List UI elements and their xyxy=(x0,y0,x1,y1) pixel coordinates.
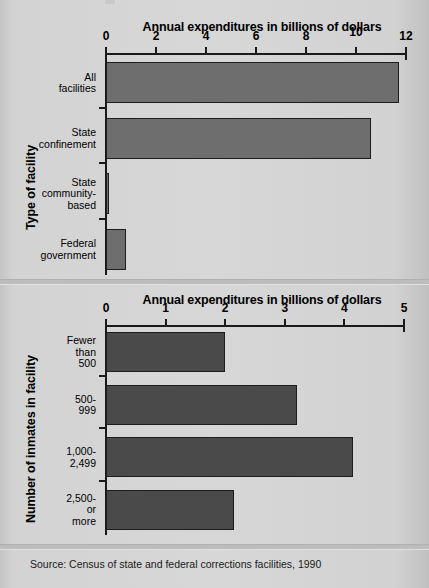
category-label: 500- 999 xyxy=(10,393,96,416)
category-label: State confinement xyxy=(10,127,96,150)
x-tick-label-8: 8 xyxy=(303,29,310,43)
x-tick-2 xyxy=(155,47,157,53)
x-axis-end-cap xyxy=(403,325,405,332)
x-axis-end-cap xyxy=(405,53,407,60)
x-tick-2 xyxy=(224,319,226,325)
x-axis-line-top xyxy=(105,53,407,55)
y-tick xyxy=(99,480,106,482)
x-tick-label-3: 3 xyxy=(281,301,288,315)
bar xyxy=(106,490,234,530)
y-tick xyxy=(99,375,106,377)
bar xyxy=(106,118,371,159)
plot-area-top: 024681012All facilitiesState confinement… xyxy=(105,53,405,275)
x-tick-label-2: 2 xyxy=(153,29,160,43)
x-tick-label-5: 5 xyxy=(401,301,408,315)
bar xyxy=(106,385,297,425)
x-tick-8 xyxy=(305,47,307,53)
category-label: All facilities xyxy=(10,71,96,94)
x-tick-label-6: 6 xyxy=(253,29,260,43)
x-tick-10 xyxy=(355,47,357,53)
x-tick-0 xyxy=(105,319,107,325)
x-axis-line-bottom xyxy=(105,325,405,327)
x-tick-3 xyxy=(284,319,286,325)
figure-page: Annual expenditures in billions of dolla… xyxy=(0,0,429,588)
bar xyxy=(106,229,126,270)
x-tick-label-0: 0 xyxy=(103,301,110,315)
category-label: Federal government xyxy=(10,238,96,261)
x-tick-label-1: 1 xyxy=(162,301,169,315)
chart-title-top: Annual expenditures in billions of dolla… xyxy=(95,20,429,34)
x-tick-label-12: 12 xyxy=(399,29,412,43)
y-tick xyxy=(99,218,106,220)
category-label: 2,500- or more xyxy=(10,493,96,528)
panel-divider-2 xyxy=(0,544,429,550)
x-tick-1 xyxy=(165,319,167,325)
bar xyxy=(106,173,109,214)
bar xyxy=(106,62,399,103)
category-label: State community- based xyxy=(10,177,96,212)
y-tick xyxy=(99,162,106,164)
bar xyxy=(106,437,353,477)
chart-panel-type-of-facility: Annual expenditures in billions of dolla… xyxy=(0,0,429,283)
x-tick-4 xyxy=(343,319,345,325)
x-tick-4 xyxy=(205,47,207,53)
y-tick xyxy=(99,427,106,429)
x-tick-label-0: 0 xyxy=(103,29,110,43)
chart-panel-inmates-in-facility: Annual expenditures in billions of dolla… xyxy=(0,283,429,545)
category-label: 1,000- 2,499 xyxy=(10,446,96,469)
x-tick-0 xyxy=(105,47,107,53)
source-note: Source: Census of state and federal corr… xyxy=(30,558,321,570)
bar xyxy=(106,332,225,372)
plot-area-bottom: 012345Fewer than 500500- 9991,000- 2,499… xyxy=(105,325,403,535)
x-tick-label-4: 4 xyxy=(341,301,348,315)
x-tick-label-10: 10 xyxy=(349,25,362,39)
x-tick-label-2: 2 xyxy=(222,301,229,315)
category-label: Fewer than 500 xyxy=(10,335,96,370)
chart-title-bottom: Annual expenditures in billions of dolla… xyxy=(95,293,429,307)
x-tick-label-4: 4 xyxy=(203,29,210,43)
y-tick xyxy=(99,107,106,109)
x-tick-6 xyxy=(255,47,257,53)
